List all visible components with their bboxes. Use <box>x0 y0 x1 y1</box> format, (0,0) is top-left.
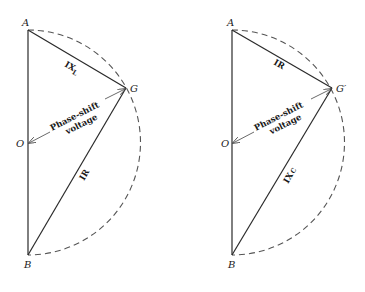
svg-text:IR: IR <box>272 57 287 72</box>
semicircle-arc <box>232 30 345 255</box>
segment-label-ir: IR <box>77 167 92 182</box>
point-B-label: B <box>23 259 31 270</box>
phase-shift-label: Phase-shift voltage <box>48 100 105 142</box>
svg-text:IXL: IXL <box>62 59 82 78</box>
phase-arrow-to-O <box>233 132 254 143</box>
phase-shift-label: Phase-shift voltage <box>252 100 309 142</box>
point-O-label: O <box>221 138 229 149</box>
point-A-label: A <box>226 17 234 28</box>
point-A-label: A <box>21 17 29 28</box>
segment-label-ir: IR <box>272 57 287 72</box>
phasor-diagrams: A G O B IXL IR Phase-shift voltage A G′ … <box>0 0 365 292</box>
line-AG-ixl <box>28 30 126 88</box>
point-B-label: B <box>227 259 235 270</box>
svg-text:IR: IR <box>77 167 92 182</box>
phase-arrow-to-O <box>29 132 50 143</box>
point-G-label: G <box>130 83 138 94</box>
point-G-prime-label: G′ <box>336 83 347 94</box>
diagram-capacitive: A G′ O B IR IXC Phase-shift voltage <box>221 17 347 270</box>
diagram-inductive: A G O B IXL IR Phase-shift voltage <box>16 17 141 270</box>
segment-label-ixl: IXL <box>62 59 82 78</box>
point-O-label: O <box>16 138 24 149</box>
